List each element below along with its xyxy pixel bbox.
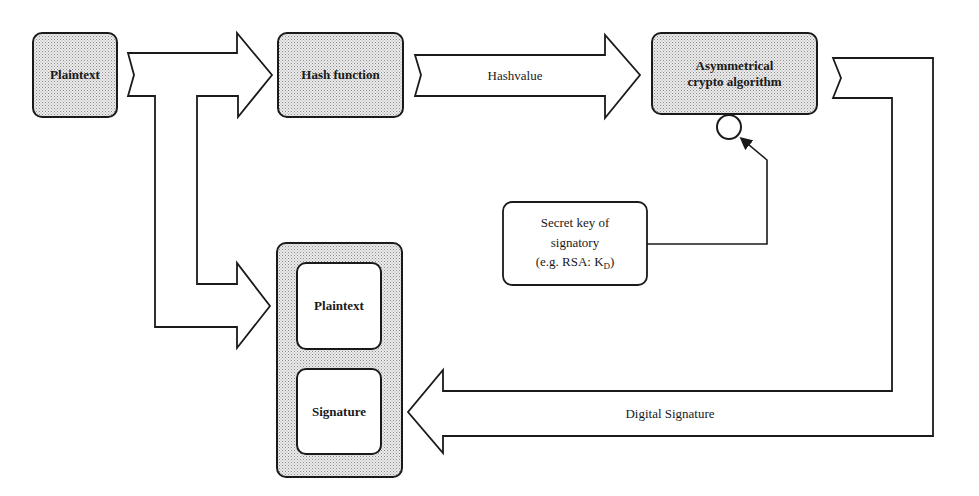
asym-algorithm-line1: Asymmetrical	[696, 58, 774, 74]
output-plaintext-text: Plaintext	[314, 298, 364, 314]
asym-algorithm-label: Asymmetrical crypto algorithm	[652, 33, 817, 114]
digital-signature-text: Digital Signature	[625, 406, 714, 422]
secret-key-line2: signatory	[551, 233, 599, 253]
output-signature-text: Signature	[312, 404, 366, 420]
plaintext-source-label: Plaintext	[33, 33, 117, 117]
plaintext-source-text: Plaintext	[50, 67, 100, 83]
hash-function-label: Hash function	[278, 33, 403, 117]
secret-key-line1: Secret key of	[541, 213, 610, 233]
hash-function-text: Hash function	[301, 67, 379, 83]
output-signature-label: Signature	[297, 369, 381, 454]
digital-signature-label: Digital Signature	[450, 391, 890, 436]
hashvalue-label: Hashvalue	[430, 55, 600, 96]
secret-key-label: Secret key of signatory (e.g. RSA: KD)	[503, 202, 647, 285]
hashvalue-text: Hashvalue	[488, 68, 543, 84]
plaintext-fork-arrow	[128, 33, 272, 348]
key-input-port-icon	[717, 115, 741, 139]
secret-key-line3-suffix: )	[610, 254, 614, 269]
secret-key-line3-prefix: (e.g. RSA: K	[536, 254, 604, 269]
output-plaintext-label: Plaintext	[297, 263, 381, 349]
asym-algorithm-line2: crypto algorithm	[687, 74, 781, 90]
secret-key-connector	[647, 139, 767, 244]
secret-key-line3: (e.g. RSA: KD)	[536, 252, 615, 274]
